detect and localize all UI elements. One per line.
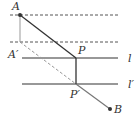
point-b bbox=[108, 107, 112, 111]
label-b: B bbox=[113, 103, 122, 116]
diagram-canvas: A A′ P P′ B l l′ bbox=[0, 0, 140, 133]
segment-p-prime-b bbox=[76, 84, 110, 109]
segment-a-prime-p-prime bbox=[20, 42, 76, 84]
point-a bbox=[18, 13, 22, 17]
label-p: P bbox=[77, 44, 86, 57]
segment-a-p bbox=[20, 15, 76, 58]
label-l: l bbox=[128, 52, 132, 65]
label-p-prime: P′ bbox=[69, 88, 80, 101]
label-l-prime: l′ bbox=[128, 78, 135, 91]
label-a-prime: A′ bbox=[7, 48, 19, 61]
label-a: A bbox=[11, 0, 20, 13]
